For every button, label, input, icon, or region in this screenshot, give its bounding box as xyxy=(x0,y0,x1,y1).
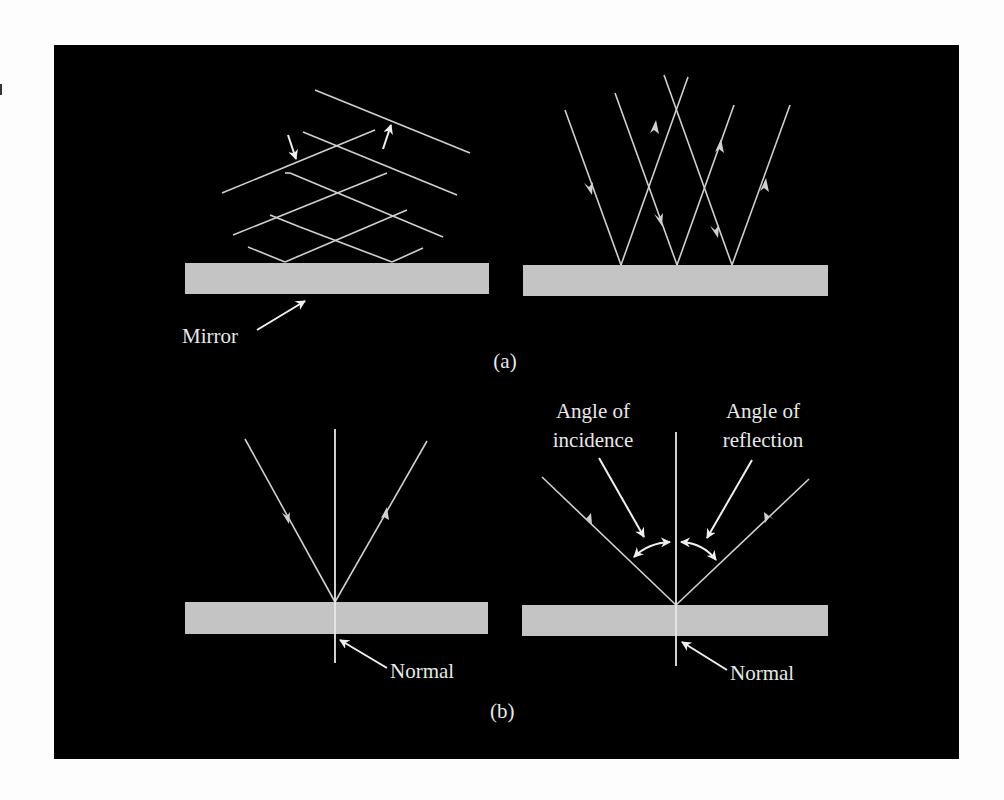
mirror-pointer-arrow-icon xyxy=(257,301,305,330)
ray-arrowheads-b-right xyxy=(582,512,774,524)
normal-label-right: Normal xyxy=(730,661,794,685)
mirror-a-right xyxy=(523,265,828,296)
angle-reflection-label-line1: Angle of xyxy=(726,399,800,423)
reflection-diagram: Mirror (a) Normal xyxy=(0,0,1004,800)
incidence-pointer-arrow-icon xyxy=(599,458,644,537)
caption-a: (a) xyxy=(493,349,516,373)
angle-of-reflection-arc xyxy=(681,542,716,560)
reflected-direction-arrow-icon xyxy=(383,125,391,149)
angle-incidence-label-line2: incidence xyxy=(553,428,633,452)
mirror-b-left xyxy=(185,602,488,634)
wavefront-diagram xyxy=(222,90,470,262)
caption-b: (b) xyxy=(490,699,515,723)
angle-incidence-label-line1: Angle of xyxy=(556,399,630,423)
reflection-left xyxy=(245,439,427,602)
mirror-b-right xyxy=(522,605,828,636)
ray-diagram xyxy=(565,75,790,265)
reflection-pointer-arrow-icon xyxy=(707,460,752,538)
normal-pointer-arrow-right-icon xyxy=(682,642,727,670)
mirror-label: Mirror xyxy=(182,324,238,348)
normal-pointer-arrow-left-icon xyxy=(340,640,387,668)
angle-of-incidence-arc xyxy=(634,542,670,557)
ray-arrowheads xyxy=(584,120,769,238)
angle-reflection-label-line2: reflection xyxy=(723,428,804,452)
mirror-a-left xyxy=(185,263,489,294)
wavefront-direction-arrows xyxy=(288,125,391,159)
incident-direction-arrow-icon xyxy=(288,135,296,159)
normal-label-left: Normal xyxy=(390,659,454,683)
